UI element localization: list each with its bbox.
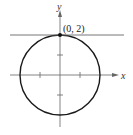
x-axis-arrow-icon	[112, 73, 119, 77]
y-axis-label: y	[56, 1, 62, 12]
tangent-point	[58, 33, 62, 37]
point-label: (0, 2)	[63, 23, 85, 35]
x-axis-label: x	[120, 70, 126, 81]
diagram: (0, 2) y x	[0, 0, 133, 135]
